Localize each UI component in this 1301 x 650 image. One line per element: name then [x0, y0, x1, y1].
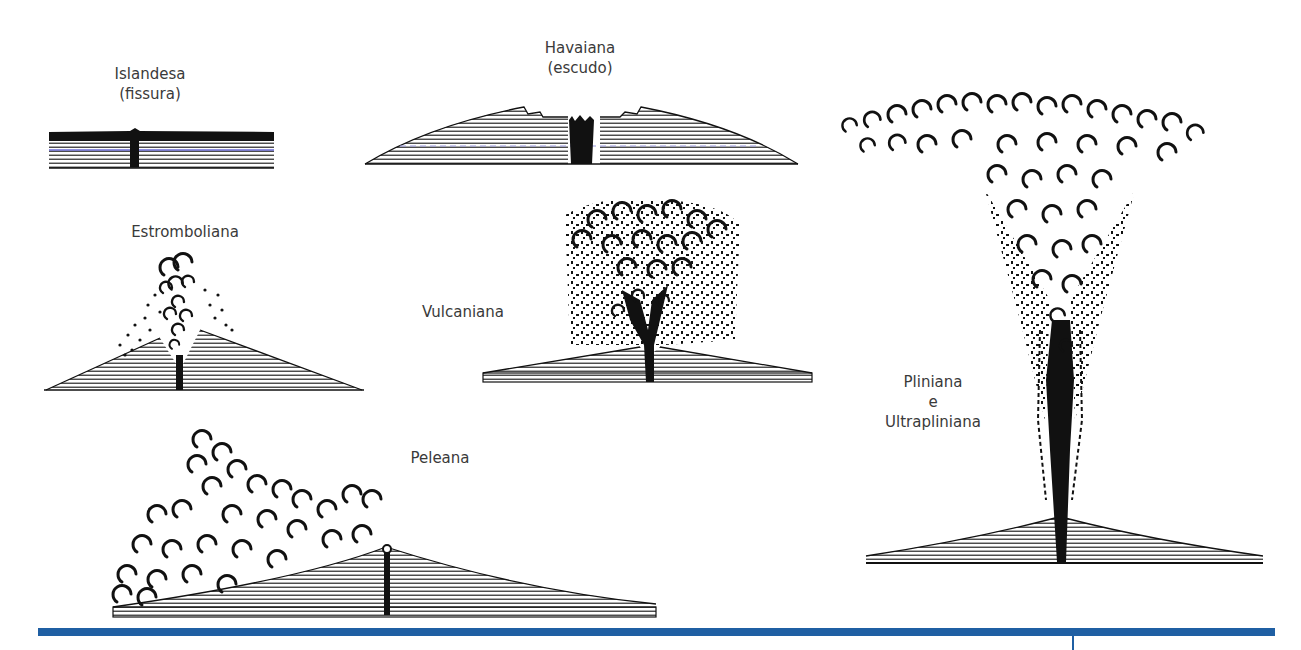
- pliniana-figure: [842, 94, 1270, 566]
- footer-rule: [38, 628, 1275, 636]
- peleana-figure: [110, 431, 660, 620]
- havaiana-figure: [360, 100, 805, 170]
- eruption-diagram: [0, 0, 1301, 650]
- vulcaniana-figure: [480, 199, 815, 385]
- islandesa-figure: [49, 128, 274, 169]
- footer-rule-tick: [1072, 636, 1074, 650]
- estromboliana-figure: [40, 254, 370, 395]
